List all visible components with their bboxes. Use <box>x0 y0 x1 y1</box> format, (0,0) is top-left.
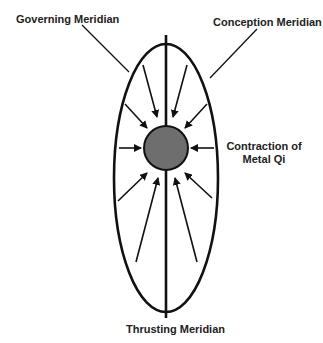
metal-qi-circle <box>144 126 188 170</box>
conception-leader-line <box>210 29 257 78</box>
meridian-diagram <box>0 0 323 343</box>
contraction-label-line2: Metal Qi <box>226 153 302 166</box>
conception-meridian-label: Conception Meridian <box>213 16 322 29</box>
governing-meridian-label: Governing Meridian <box>16 13 119 26</box>
thrusting-meridian-label: Thrusting Meridian <box>126 323 225 336</box>
contraction-label-line1: Contraction of <box>226 140 302 153</box>
governing-leader-line <box>82 25 129 72</box>
contraction-label: Contraction of Metal Qi <box>226 140 302 166</box>
